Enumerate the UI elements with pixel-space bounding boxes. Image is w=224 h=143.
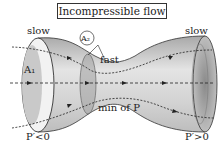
label-a2: A₂ [80,34,90,43]
cross-section-a2 [80,54,96,114]
tube-body [38,36,205,132]
venturi-tube-diagram: slow slow fast A₂ A₁ min of P P′<0 P′>0 [0,0,224,143]
label-p-right: P′>0 [185,131,209,142]
label-slow-left: slow [27,25,50,36]
label-min-p: min of P [98,102,140,113]
label-fast: fast [100,54,119,65]
label-p-left: P′<0 [26,131,50,142]
label-slow-right: slow [185,25,208,36]
label-a1: A₁ [23,64,35,75]
